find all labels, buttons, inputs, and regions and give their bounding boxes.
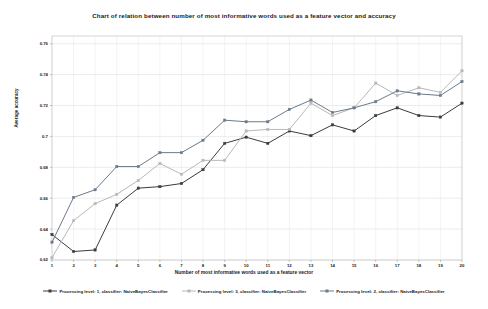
data-point-marker xyxy=(374,82,377,85)
data-point-marker xyxy=(72,196,75,199)
data-point-marker xyxy=(180,173,183,176)
data-point-marker xyxy=(461,70,464,73)
data-point-marker xyxy=(439,91,442,94)
legend-item-2[interactable]: Processing level: 3, classifier: NaiveBa… xyxy=(182,288,306,294)
x-tick-label: 9 xyxy=(217,263,233,268)
data-point-marker xyxy=(245,120,248,123)
data-point-marker xyxy=(331,114,334,117)
x-tick-label: 15 xyxy=(346,263,362,268)
series-line-1 xyxy=(51,102,464,253)
data-point-marker xyxy=(223,119,226,122)
x-tick-label: 18 xyxy=(411,263,427,268)
x-tick-label: 20 xyxy=(454,263,470,268)
data-point-marker xyxy=(439,116,442,119)
data-point-marker xyxy=(396,94,399,97)
y-tick-label: 0.72 xyxy=(22,103,48,108)
data-point-marker xyxy=(223,159,226,162)
legend-line-marker-icon xyxy=(320,288,334,294)
data-point-marker xyxy=(115,165,118,168)
data-point-marker xyxy=(115,204,118,207)
legend-item-1[interactable]: Processing level: 1, classifier: NaiveBa… xyxy=(43,288,167,294)
data-point-marker xyxy=(94,249,97,252)
data-point-marker xyxy=(288,128,291,131)
data-point-marker xyxy=(374,100,377,103)
legend-line-marker-icon xyxy=(182,288,196,294)
data-point-marker xyxy=(331,111,334,114)
data-point-marker xyxy=(159,185,162,188)
x-tick-label: 4 xyxy=(109,263,125,268)
data-point-marker xyxy=(418,114,421,117)
data-point-marker xyxy=(159,162,162,165)
x-tick-label: 3 xyxy=(87,263,103,268)
chart-legend: Processing level: 1, classifier: NaiveBa… xyxy=(0,288,488,294)
data-point-marker xyxy=(418,93,421,96)
data-point-marker xyxy=(202,168,205,171)
data-point-marker xyxy=(461,102,464,105)
data-point-marker xyxy=(94,188,97,191)
x-tick-label: 7 xyxy=(173,263,189,268)
x-tick-label: 6 xyxy=(152,263,168,268)
data-point-marker xyxy=(115,193,118,196)
series-line-3 xyxy=(51,80,464,243)
data-point-marker xyxy=(51,233,54,236)
x-tick-label: 16 xyxy=(368,263,384,268)
x-tick-label: 14 xyxy=(325,263,341,268)
data-point-marker xyxy=(245,136,248,139)
data-point-marker xyxy=(267,128,270,131)
y-tick-label: 0.74 xyxy=(22,72,48,77)
x-tick-label: 8 xyxy=(195,263,211,268)
data-point-marker xyxy=(310,99,313,102)
data-point-marker xyxy=(310,102,313,105)
data-point-marker xyxy=(267,120,270,123)
data-point-marker xyxy=(374,114,377,117)
data-point-marker xyxy=(72,219,75,222)
y-tick-label: 0.7 xyxy=(22,134,48,139)
y-tick-label: 0.68 xyxy=(22,165,48,170)
legend-label: Processing level: 3, classifier: NaiveBa… xyxy=(198,289,306,294)
x-tick-label: 11 xyxy=(260,263,276,268)
x-tick-label: 19 xyxy=(432,263,448,268)
y-tick-label: 0.62 xyxy=(22,257,48,262)
y-tick-label: 0.64 xyxy=(22,227,48,232)
y-tick-label: 0.66 xyxy=(22,196,48,201)
data-point-marker xyxy=(353,130,356,133)
plot-frame xyxy=(52,36,462,260)
data-point-marker xyxy=(159,151,162,154)
data-point-marker xyxy=(396,90,399,93)
data-point-marker xyxy=(202,159,205,162)
x-tick-label: 13 xyxy=(303,263,319,268)
data-point-marker xyxy=(245,130,248,133)
x-tick-label: 1 xyxy=(44,263,60,268)
data-point-marker xyxy=(137,187,140,190)
x-tick-label: 5 xyxy=(130,263,146,268)
data-point-marker xyxy=(137,179,140,182)
data-point-marker xyxy=(223,142,226,145)
y-tick-label: 0.76 xyxy=(22,41,48,46)
data-point-marker xyxy=(288,108,291,111)
x-tick-label: 12 xyxy=(281,263,297,268)
data-point-marker xyxy=(353,107,356,110)
data-point-marker xyxy=(461,80,464,83)
legend-item-3[interactable]: Processing level: 2, classifier: NaiveBa… xyxy=(320,288,444,294)
series-path xyxy=(52,71,462,258)
data-point-marker xyxy=(180,151,183,154)
data-point-marker xyxy=(331,124,334,127)
legend-label: Processing level: 2, classifier: NaiveBa… xyxy=(336,289,444,294)
x-tick-label: 2 xyxy=(66,263,82,268)
x-tick-label: 10 xyxy=(238,263,254,268)
data-point-marker xyxy=(51,256,54,259)
data-point-marker xyxy=(310,134,313,137)
data-point-marker xyxy=(439,94,442,97)
data-point-marker xyxy=(396,107,399,110)
data-point-marker xyxy=(137,165,140,168)
data-point-marker xyxy=(267,142,270,145)
legend-line-marker-icon xyxy=(43,288,57,294)
data-point-marker xyxy=(202,139,205,142)
series-line-2 xyxy=(51,70,464,259)
data-point-marker xyxy=(51,241,54,244)
data-point-marker xyxy=(72,250,75,253)
x-tick-label: 17 xyxy=(389,263,405,268)
chart-container: Chart of relation between number of most… xyxy=(0,0,488,309)
data-point-marker xyxy=(418,87,421,90)
data-point-marker xyxy=(94,202,97,205)
